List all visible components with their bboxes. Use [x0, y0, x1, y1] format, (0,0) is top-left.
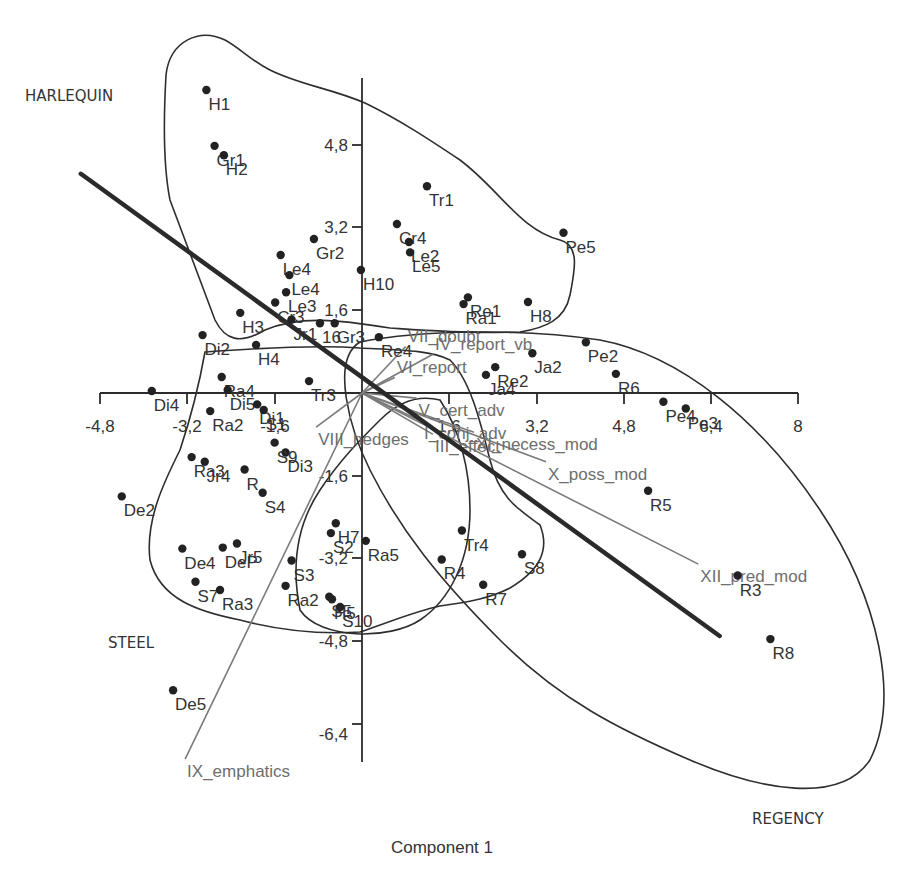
data-point-label: Tr4 [464, 536, 489, 555]
data-point-label: S1 [266, 415, 287, 434]
loading-vector-label: VII_doubt [408, 327, 481, 346]
group-label-steel: STEEL [108, 634, 155, 652]
data-point [236, 309, 244, 317]
data-point-label: Re2 [497, 372, 528, 391]
data-point [362, 537, 370, 545]
data-point [276, 251, 284, 259]
data-point-label: R8 [772, 644, 794, 663]
data-point [405, 238, 413, 246]
data-point [491, 363, 499, 371]
data-point-label: Pe5 [565, 238, 595, 257]
loading-vector-label: X_poss_mod [548, 465, 647, 484]
data-point [198, 331, 206, 339]
data-point-label: H3 [242, 318, 264, 337]
data-point-label: S9 [277, 448, 298, 467]
data-point [202, 86, 210, 94]
data-point-label: S8 [524, 559, 545, 578]
data-point [375, 333, 383, 341]
data-point [582, 338, 590, 346]
data-point-label: De5 [175, 695, 206, 714]
y-tick-label: -6,4 [319, 725, 348, 744]
data-point [406, 248, 414, 256]
data-point [216, 586, 224, 594]
data-point-label: Re4 [381, 342, 412, 361]
data-point [287, 315, 295, 323]
data-point-label: Gr2 [316, 244, 344, 263]
x-tick-label: 3,2 [525, 417, 549, 436]
data-point-label: R5 [650, 496, 672, 515]
data-point-label: Di4 [154, 396, 180, 415]
data-point [252, 341, 260, 349]
data-point-label: Ra3 [222, 595, 253, 614]
data-point [659, 398, 667, 406]
data-point [559, 229, 567, 237]
data-point-label: Ra2 [212, 416, 243, 435]
y-tick-label: 1,6 [324, 301, 348, 320]
x-tick-label: -4,8 [85, 417, 114, 436]
data-point [178, 544, 186, 552]
data-point-label: R4 [444, 564, 466, 583]
data-point-label: R3 [740, 581, 762, 600]
data-point-label: De4 [184, 554, 215, 573]
data-point-label: S3 [294, 566, 315, 585]
y-tick-label: -4,8 [319, 632, 348, 651]
x-tick-label: 4,8 [612, 417, 636, 436]
data-point-label: Tr3 [311, 386, 336, 405]
data-point [357, 266, 365, 274]
data-point-label: DeP [225, 553, 258, 572]
data-point [336, 603, 344, 611]
data-point [316, 319, 324, 327]
data-point [270, 438, 278, 446]
data-point-label: Cr4 [399, 229, 426, 248]
data-point [331, 319, 339, 327]
data-point [328, 595, 336, 603]
y-tick-label: -1,6 [319, 467, 348, 486]
data-point [332, 519, 340, 527]
data-point-label: R [247, 475, 259, 494]
data-point [187, 453, 195, 461]
data-point [612, 370, 620, 378]
data-point-label: Le5 [412, 257, 440, 276]
data-point-label: S2 [333, 538, 354, 557]
data-point [479, 581, 487, 589]
data-point-label: Jr1 [294, 325, 318, 344]
data-point-label: R6 [618, 379, 640, 398]
data-point [423, 182, 431, 190]
data-point [281, 582, 289, 590]
data-point-label: S7 [197, 587, 218, 606]
data-point [219, 543, 227, 551]
loading-vector-label: IX_emphatics [187, 762, 290, 781]
data-point-label: H4 [258, 350, 280, 369]
loading-vector-label: VIII_hedges [318, 430, 409, 449]
data-point [271, 298, 279, 306]
data-point [438, 555, 446, 563]
data-point-label: H10 [363, 275, 394, 294]
data-point-label: Pe3 [688, 414, 718, 433]
group-label-regency: REGENCY [752, 810, 824, 828]
data-point [528, 349, 536, 357]
data-point-label: Ja2 [534, 358, 561, 377]
group-label-harlequin: HARLEQUIN [25, 87, 113, 105]
data-point [733, 571, 741, 579]
data-point [217, 373, 225, 381]
data-point-label: R7 [485, 590, 507, 609]
data-point-label: De2 [124, 501, 155, 520]
data-point [260, 406, 268, 414]
loading-vector-label: V_cert_adv [419, 401, 505, 420]
data-point-label: S10 [342, 612, 372, 631]
data-point [191, 578, 199, 586]
data-point [766, 635, 774, 643]
x-axis-title: Component 1 [391, 838, 493, 857]
x-tick-label: 8 [793, 417, 802, 436]
data-point-label: Tr1 [429, 191, 454, 210]
data-point-label: Ra2 [288, 591, 319, 610]
data-point [518, 550, 526, 558]
data-point [482, 371, 490, 379]
data-point-label: Di2 [205, 340, 231, 359]
data-point-label: Ra5 [368, 546, 399, 565]
data-points: H1Gr1H2Tr1Pe5Cr4Le2Le5Gr2H10Le4Le4Le3Cr3… [118, 86, 795, 714]
data-point [458, 526, 466, 534]
data-point [644, 487, 652, 495]
x-tick-label: -3,2 [172, 417, 201, 436]
data-point [253, 400, 261, 408]
